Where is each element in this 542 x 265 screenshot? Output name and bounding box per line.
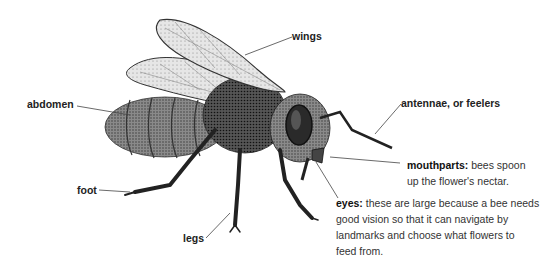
wings-label: wings [292,30,322,43]
legs-label: legs [183,232,204,245]
legs-leader-line [206,213,230,238]
eyes-term: eyes: [336,197,363,209]
mouthparts-text-line2: up the flower's nectar. [407,173,542,189]
mouthparts-text-line1: bees spoon [471,159,525,171]
mouthparts-callout: mouthparts: bees spoon up the flower's n… [407,157,542,189]
mouthparts-term: mouthparts: [407,159,468,171]
wings-leader-line [245,37,292,55]
eyes-callout: eyes: these are large because a bee need… [336,195,542,259]
abdomen-label: abdomen [27,98,74,111]
eyes-leader-line [316,162,338,198]
head [270,94,392,180]
antennae-leader-line [375,104,401,134]
mouthparts-leader-line [330,157,400,163]
bee-diagram: wings abdomen antennae, or feelers foot … [0,0,542,265]
eyes-text-line1: these are large because a bee needs [366,197,539,209]
foot-label: foot [77,184,97,197]
eyes-text-line2: good vision so that it can navigate by [336,211,542,227]
foot-leader-line [99,190,130,192]
eyes-text-line4: feed from. [336,243,542,259]
eyes-text-line3: landmarks and choose what flowers to [336,227,542,243]
antennae-label: antennae, or feelers [401,97,500,110]
